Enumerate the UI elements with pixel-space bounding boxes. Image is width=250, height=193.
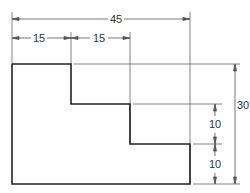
dim-overall-height: 30 [237,99,249,111]
dim-overall-width: 45 [110,13,122,25]
part-outline [12,64,190,184]
technical-drawing: 45 15 15 30 10 10 [0,0,250,193]
arrowhead-icon [214,137,217,144]
arrowhead-icon [214,104,217,111]
dim-step-height-upper: 10 [209,118,221,130]
dim-step2-width: 15 [93,32,105,44]
arrowhead-icon [234,64,237,71]
arrowhead-icon [123,37,130,40]
dim-step-height-lower: 10 [209,158,221,170]
arrowhead-icon [214,144,217,151]
arrowhead-icon [64,37,71,40]
arrowhead-icon [12,18,19,21]
arrowhead-icon [214,177,217,184]
dim-step1-width: 15 [33,32,45,44]
arrowhead-icon [183,18,190,21]
arrowhead-icon [71,37,78,40]
arrowhead-icon [12,37,19,40]
dimension-lines [12,18,237,185]
arrowhead-icon [234,177,237,184]
